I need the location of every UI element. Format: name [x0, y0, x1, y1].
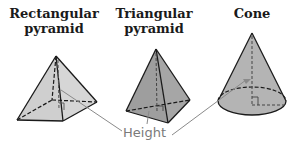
cone-figure — [218, 33, 286, 115]
triangular-pyramid-figure — [126, 49, 190, 123]
height-label: Height — [123, 125, 166, 140]
rectangular-pyramid-figure — [17, 56, 97, 121]
